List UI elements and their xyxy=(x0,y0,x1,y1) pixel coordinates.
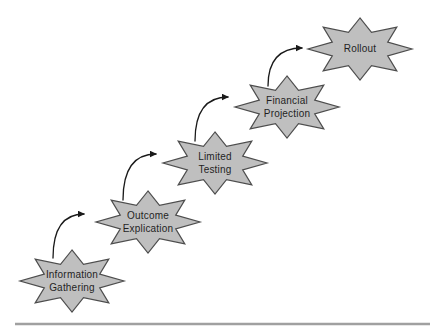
flow-arrow-3 xyxy=(195,97,228,141)
stage-star-financial-projection xyxy=(235,76,339,138)
stage-flow-figure: Information Gathering Outcome Explicatio… xyxy=(0,0,436,331)
stage-star-information-gathering xyxy=(20,250,124,312)
stage-star-outcome-explication xyxy=(96,191,200,253)
flow-arrow-2 xyxy=(123,154,156,200)
flow-arrow-1 xyxy=(53,214,84,258)
stage-star-rollout xyxy=(308,18,412,80)
stage-diagram xyxy=(0,0,436,331)
stage-star-limited-testing xyxy=(163,132,267,194)
